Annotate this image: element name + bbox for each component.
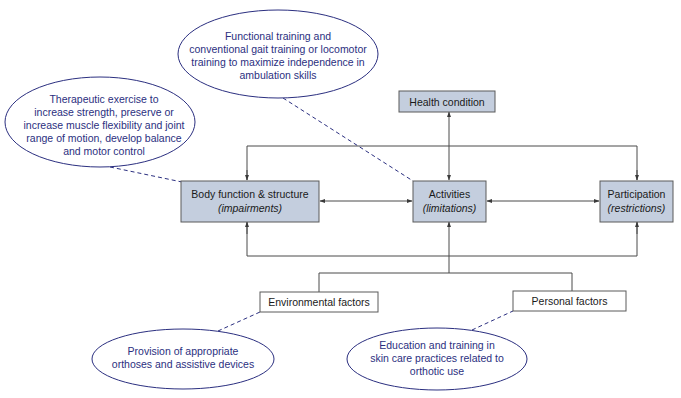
- functional-line-3: training to maximize independence in: [191, 56, 365, 68]
- education-line-3: orthotic use: [410, 365, 464, 377]
- callout-functional-training: Functional training and conventional gai…: [178, 10, 378, 98]
- therapeutic-line-2: increase strength, preserve or: [34, 106, 174, 118]
- edge-top-bus: [247, 146, 637, 180]
- body-function-sublabel: (impairments): [218, 202, 282, 214]
- edge-context-fork: [319, 273, 572, 292]
- dash-functional-activities: [283, 98, 413, 181]
- node-body-function[interactable]: Body function & structure (impairments): [181, 181, 319, 222]
- participation-label: Participation: [608, 188, 666, 200]
- environmental-factors-label: Environmental factors: [268, 296, 370, 308]
- dash-education-personal: [472, 311, 513, 330]
- health-condition-label: Health condition: [409, 96, 484, 108]
- education-line-1: Education and training in: [379, 339, 495, 351]
- personal-factors-label: Personal factors: [532, 295, 608, 307]
- dash-provision-env: [218, 312, 260, 331]
- therapeutic-line-5: and motor control: [63, 145, 145, 157]
- activities-sublabel: (limitations): [423, 202, 477, 214]
- functional-line-4: ambulation skills: [239, 69, 316, 81]
- node-health-condition[interactable]: Health condition: [399, 91, 495, 112]
- node-participation[interactable]: Participation (restrictions): [600, 181, 673, 222]
- callout-education: Education and training in skin care prac…: [347, 328, 527, 390]
- callout-provision: Provision of appropriate orthoses and as…: [92, 329, 274, 389]
- node-activities[interactable]: Activities (limitations): [413, 181, 486, 222]
- icf-diagram: Health condition Body function & structu…: [0, 0, 681, 398]
- participation-sublabel: (restrictions): [608, 202, 666, 214]
- activities-label: Activities: [429, 188, 470, 200]
- therapeutic-line-3: increase muscle flexibility and joint: [23, 119, 184, 131]
- therapeutic-line-4: range of motion, develop balance: [26, 132, 181, 144]
- functional-line-1: Functional training and: [225, 30, 331, 42]
- provision-line-2: orthoses and assistive devices: [112, 358, 254, 370]
- functional-line-2: conventional gait training or locomotor: [189, 43, 367, 55]
- therapeutic-line-1: Therapeutic exercise to: [49, 93, 158, 105]
- provision-line-1: Provision of appropriate: [128, 345, 239, 357]
- node-environmental-factors[interactable]: Environmental factors: [260, 292, 378, 312]
- education-line-2: skin care practices related to: [370, 352, 504, 364]
- body-function-label: Body function & structure: [191, 188, 308, 200]
- edge-bottom-bus: [247, 222, 637, 256]
- dash-therapeutic-body: [110, 167, 182, 182]
- node-personal-factors[interactable]: Personal factors: [513, 291, 626, 311]
- callout-therapeutic-exercise: Therapeutic exercise to increase strengt…: [5, 77, 195, 167]
